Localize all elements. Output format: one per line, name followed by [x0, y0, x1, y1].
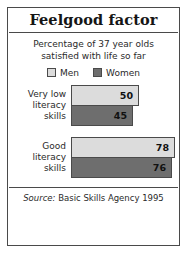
chart-subtitle: Percentage of 37 year olds satisfied wit… [8, 33, 179, 65]
chart-legend: Men Women [8, 65, 179, 83]
bar-group-good-literacy: Good literacy skills 78 76 [8, 137, 169, 178]
legend-swatch-women-icon [93, 68, 102, 77]
bar-value-women-good-literacy: 76 [153, 162, 166, 173]
bar-women-good-literacy: 76 [71, 157, 172, 178]
category-label-line-3: skills [8, 111, 66, 122]
chart-title: Feelgood factor [8, 8, 179, 32]
bar-women-very-low-literacy: 45 [71, 105, 133, 126]
chart-figure: Feelgood factor Percentage of 37 year ol… [7, 7, 180, 246]
legend-item-women: Women [93, 68, 140, 78]
category-label-line-2: literacy [8, 100, 66, 111]
category-label-line-1: Very low [8, 89, 66, 100]
category-label-line-2: literacy [8, 152, 66, 163]
legend-item-men: Men [47, 68, 79, 78]
bar-group-very-low-literacy: Very low literacy skills 50 45 [8, 85, 169, 126]
source-text: Basic Skills Agency 1995 [58, 193, 164, 203]
chart-source: Source: Basic Skills Agency 1995 [8, 188, 179, 203]
bar-value-men-good-literacy: 78 [156, 142, 169, 153]
bar-men-good-literacy: 78 [71, 137, 175, 158]
legend-swatch-men-icon [47, 68, 56, 77]
plot-area: Very low literacy skills 50 45 Good lite… [8, 83, 179, 178]
bar-pair-good-literacy: 78 76 [71, 137, 175, 178]
legend-label-women: Women [106, 68, 140, 78]
bar-pair-very-low-literacy: 50 45 [71, 85, 169, 126]
category-label-line-3: skills [8, 163, 66, 174]
bar-value-men-very-low-literacy: 50 [120, 90, 133, 101]
category-label-very-low-literacy: Very low literacy skills [8, 89, 71, 123]
category-label-line-1: Good [8, 141, 66, 152]
category-label-good-literacy: Good literacy skills [8, 141, 71, 175]
bar-value-women-very-low-literacy: 45 [114, 110, 127, 121]
source-prefix: Source: [23, 193, 55, 203]
bar-men-very-low-literacy: 50 [71, 85, 139, 106]
legend-label-men: Men [60, 68, 79, 78]
